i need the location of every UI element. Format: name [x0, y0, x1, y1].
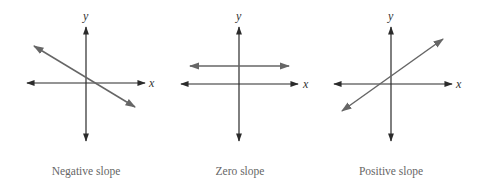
- caption-zero-slope: Zero slope: [216, 165, 265, 178]
- x-axis-label: x: [148, 76, 155, 90]
- x-axis-label: x: [302, 77, 309, 91]
- x-axis-label: x: [455, 77, 462, 91]
- negative-slope-line: [34, 46, 135, 107]
- panel-negative-slope: x y Negative slope: [27, 9, 155, 178]
- panel-zero-slope: x y Zero slope: [181, 9, 309, 178]
- y-axis-label: y: [82, 9, 89, 23]
- caption-negative-slope: Negative slope: [52, 165, 121, 178]
- positive-slope-line: [342, 39, 443, 111]
- panel-positive-slope: x y Positive slope: [334, 9, 462, 178]
- y-axis-label: y: [387, 9, 394, 23]
- caption-positive-slope: Positive slope: [359, 165, 423, 178]
- slope-diagram: x y Negative slope x y Zero slope x y Po…: [0, 0, 483, 189]
- y-axis-label: y: [235, 9, 242, 23]
